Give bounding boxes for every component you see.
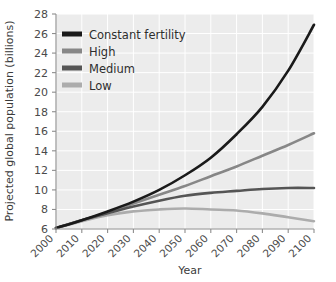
y-tick-label: 20 (34, 86, 48, 99)
legend-label-low: Low (89, 79, 112, 93)
y-tick-label: 12 (34, 164, 48, 177)
legend-swatch-medium (62, 66, 82, 71)
chart-figure: 6810121416182022242628 20002010202020302… (0, 0, 336, 282)
legend-swatch-low (62, 83, 82, 88)
legend-label-constant-fertility: Constant fertility (89, 28, 186, 42)
y-tick-label: 8 (41, 203, 48, 216)
y-tick-label: 26 (34, 28, 48, 41)
y-tick-label: 16 (34, 125, 48, 138)
legend-swatch-constant-fertility (62, 32, 82, 37)
y-tick-label: 24 (34, 47, 48, 60)
y-tick-label: 22 (34, 67, 48, 80)
x-axis-title: Year (177, 264, 202, 277)
y-tick-label: 18 (34, 106, 48, 119)
population-projection-line-chart: 6810121416182022242628 20002010202020302… (0, 0, 336, 282)
y-tick-label: 28 (34, 8, 48, 21)
legend-label-medium: Medium (89, 62, 135, 76)
y-axis-title: Projected global population (billions) (3, 20, 16, 221)
legend-swatch-high (62, 49, 82, 54)
y-tick-label: 14 (34, 145, 48, 158)
y-tick-label: 10 (34, 184, 48, 197)
legend-label-high: High (89, 45, 115, 59)
